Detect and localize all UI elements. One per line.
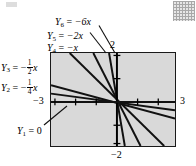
plot-area: [50, 52, 176, 147]
label-y6-equals: =: [67, 16, 73, 27]
label-y5-rhs: −2x: [67, 30, 83, 41]
label-y2-equals: =: [13, 82, 19, 93]
scan-artifact-top-right: [173, 1, 195, 21]
label-y4-index: 4: [53, 47, 57, 55]
label-y3-fraction: 12: [27, 59, 33, 75]
label-y5-equals: =: [59, 30, 65, 41]
label-y2-fraction: 14: [27, 79, 33, 95]
axis-label-left: −3: [33, 96, 44, 106]
axis-label-right: 3: [180, 96, 185, 106]
label-y3-minus: −: [21, 62, 27, 73]
label-y2-minus: −: [21, 82, 27, 93]
label-y1-index: 1: [23, 130, 27, 138]
label-y3-equals: =: [13, 62, 19, 73]
axis-label-top: 2: [110, 40, 115, 50]
label-y2-numerator: 1: [27, 79, 33, 87]
label-y2-denominator: 4: [27, 87, 33, 96]
label-y5: Y5 = −2x: [47, 31, 83, 43]
label-y6-rhs: −6x: [75, 16, 91, 27]
label-y6: Y6 = −6x: [55, 17, 91, 29]
label-y1-rhs: 0: [37, 125, 42, 136]
label-y2: Y2 = −14x: [1, 79, 38, 95]
label-y3-variable: x: [33, 62, 37, 73]
leader-y5: [90, 33, 106, 54]
label-y4-equals: =: [59, 42, 65, 53]
label-y1-equals: =: [29, 125, 35, 136]
axis-label-bottom: −2: [111, 150, 122, 160]
label-y3: Y3 = −12x: [1, 59, 38, 75]
label-y1: Y1 = 0: [17, 126, 42, 138]
label-y3-denominator: 2: [27, 67, 33, 76]
label-y4: Y4 = −x: [47, 43, 78, 55]
label-y2-index: 2: [7, 86, 11, 94]
figure-canvas: Y6 = −6x Y5 = −2x Y4 = −x Y3 = −12x Y2 =…: [0, 0, 196, 166]
label-y3-numerator: 1: [27, 59, 33, 67]
label-y6-index: 6: [61, 21, 65, 29]
scan-artifact-top-left: [6, 2, 17, 7]
label-y4-rhs: −x: [67, 42, 78, 53]
plot-svg: [51, 53, 175, 146]
label-y3-index: 3: [7, 66, 11, 74]
label-y2-variable: x: [33, 82, 37, 93]
